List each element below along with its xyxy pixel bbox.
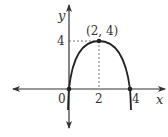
y-tick-4-label: 4	[57, 34, 65, 48]
x-tick-2-label: 2	[95, 92, 103, 106]
vertex-label: (2, 4)	[86, 24, 118, 38]
x-axis-label: x	[156, 92, 164, 107]
parabola-graph: y x (2, 4) 4 0 2 4	[0, 0, 168, 137]
origin-label: 0	[58, 92, 66, 106]
y-axis-label: y	[57, 8, 66, 23]
point-x4	[128, 87, 133, 92]
point-vertex	[97, 39, 102, 44]
graph-canvas: y x (2, 4) 4 0 2 4	[0, 0, 168, 137]
point-origin	[67, 87, 72, 92]
x-tick-4-label: 4	[132, 92, 140, 106]
